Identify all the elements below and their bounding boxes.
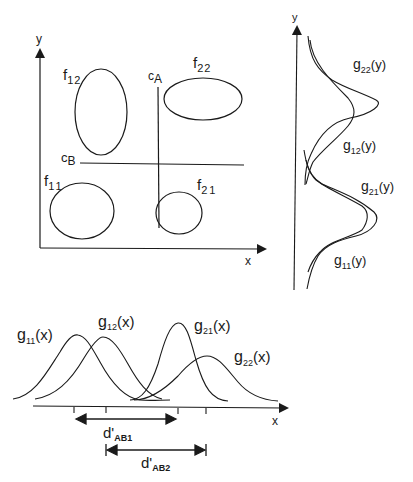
label-g11y-sub: 11	[342, 261, 351, 271]
marginal-x-axis-label: x	[272, 414, 278, 428]
label-g12x-arg: (x)	[117, 313, 135, 330]
cluster-f22-ellipse	[164, 78, 242, 120]
label-g22y-base: g	[353, 56, 361, 72]
marginal-y-axis-label: y	[292, 11, 298, 23]
label-f12: f12	[63, 66, 81, 86]
curve-g12y	[306, 40, 354, 184]
label-g11y-arg: (y)	[351, 253, 366, 268]
distance-ab1-arrowhead-right	[166, 414, 176, 424]
label-f22-sub: 22	[197, 62, 211, 74]
label-distance-ab2-base: d'	[141, 454, 152, 471]
scatter-x-axis-label: x	[245, 254, 251, 268]
criterion-a-line	[158, 87, 159, 228]
label-criterion-a-sub: A	[154, 72, 162, 86]
label-g22y-arg: (y)	[371, 57, 386, 72]
label-g22x: g22(x)	[234, 348, 270, 368]
x-marginal-panel	[13, 323, 284, 414]
label-g11x-arg: (x)	[35, 326, 53, 343]
distance-ab2-arrowhead-left	[107, 445, 117, 455]
label-f22: f22	[193, 54, 211, 74]
distance-ab1-arrowhead-left	[76, 414, 86, 424]
label-g22x-base: g	[234, 348, 243, 365]
label-distance-ab2-sub: AB2	[152, 463, 170, 473]
label-criterion-a: cA	[148, 69, 162, 86]
label-g21x-base: g	[194, 317, 203, 334]
label-distance-ab1-sub: AB1	[114, 433, 132, 443]
y-marginal-labels: y g22(y) g12(y) g21(y) g11(y)	[292, 11, 394, 271]
label-g12y-arg: (y)	[361, 138, 376, 153]
label-f21-sub: 21	[201, 184, 217, 196]
label-g12y-sub: 12	[351, 146, 361, 156]
scatter-x-axis	[40, 248, 262, 249]
label-criterion-b: cB	[61, 150, 76, 168]
label-g12x-sub: 12	[107, 322, 117, 332]
label-g22y: g22(y)	[353, 56, 386, 75]
marginal-x-axis	[33, 406, 284, 408]
label-f21: f21	[197, 176, 217, 196]
label-g11y-base: g	[334, 252, 342, 268]
label-g12y-base: g	[343, 137, 351, 153]
label-g21y-sub: 21	[369, 187, 379, 197]
label-g11x-base: g	[17, 326, 26, 343]
label-distance-ab1: d'AB1	[103, 424, 132, 443]
label-g22x-arg: (x)	[253, 348, 271, 365]
label-f11-sub: 11	[48, 180, 63, 192]
marginal-y-axis	[294, 30, 297, 290]
label-g21x: g21(x)	[194, 317, 230, 336]
scatter-y-axis-label: y	[36, 32, 42, 46]
label-g12y: g12(y)	[343, 137, 376, 156]
distance-markers	[76, 414, 206, 456]
label-g11x-sub: 11	[26, 336, 35, 346]
label-g12x: g12(x)	[98, 313, 134, 332]
curve-g12x	[35, 337, 162, 399]
criterion-b-line	[80, 163, 244, 165]
label-g22y-sub: 22	[361, 65, 371, 75]
curve-g21x	[130, 323, 228, 401]
label-g22x-sub: 22	[243, 358, 253, 368]
label-g21x-sub: 21	[203, 326, 213, 336]
label-distance-ab2: d'AB2	[141, 454, 170, 473]
label-distance-ab1-base: d'	[103, 424, 114, 441]
label-g21y-arg: (y)	[379, 179, 394, 194]
label-f11: f11	[44, 172, 64, 192]
diagram-canvas: y x f12 f22 f11 f21 cA cB y	[0, 0, 413, 482]
label-f12-sub: 12	[67, 74, 81, 86]
scatter-labels: y x f12 f22 f11 f21 cA cB	[36, 32, 251, 268]
distance-ab2-arrowhead-right	[195, 445, 205, 455]
label-g11y: g11(y)	[334, 252, 366, 271]
cluster-f12-ellipse	[75, 69, 127, 155]
label-criterion-b-sub: B	[68, 154, 76, 168]
label-g21x-arg: (x)	[213, 317, 231, 334]
label-g11x: g11(x)	[17, 326, 53, 346]
x-marginal-labels: x g11(x) g12(x) g21(x) g22(x) d'AB1 d'AB…	[17, 313, 278, 473]
cluster-f21-ellipse	[156, 192, 202, 234]
label-g12x-base: g	[98, 313, 107, 330]
label-g21y: g21(y)	[361, 178, 394, 197]
label-g21y-base: g	[361, 178, 369, 194]
